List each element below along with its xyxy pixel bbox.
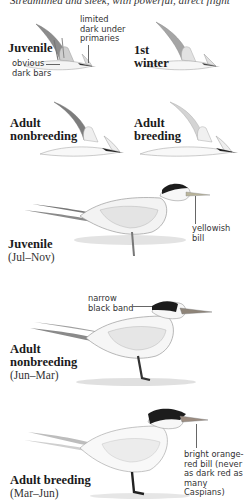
note-yellowish-bill: yellowish bill	[192, 224, 230, 243]
bird-adult-breeding-flight-illustration	[170, 100, 244, 160]
label-first-winter-flight: 1st winter	[134, 44, 169, 70]
leader-line	[46, 64, 60, 65]
label-juvenile-standing: Juvenile (Jul–Nov)	[8, 238, 55, 263]
label-juvenile-flight: Juvenile	[8, 42, 52, 55]
label-adult-breeding-flight: Adult breeding	[134, 117, 181, 143]
note-bright-orange-red-bill: bright orange- red bill (never as dark r…	[184, 450, 244, 498]
note-obvious-dark-bars: obvious dark bars	[12, 59, 51, 78]
leader-line	[196, 424, 197, 448]
label-adult-nonbreeding-standing: Adult nonbreeding (Jun–Mar)	[10, 343, 77, 381]
leader-line	[88, 45, 89, 63]
label-adult-nonbreeding-flight: Adult nonbreeding	[10, 117, 77, 143]
leader-line	[195, 196, 196, 224]
page-caption: Streamlined and sleek, with powerful, di…	[10, 0, 230, 6]
note-limited-dark-primaries: limited dark under primaries	[80, 15, 126, 44]
label-adult-breeding-standing: Adult breeding (Mar–Jun)	[10, 474, 91, 499]
bird-juvenile-standing-illustration	[20, 180, 220, 280]
